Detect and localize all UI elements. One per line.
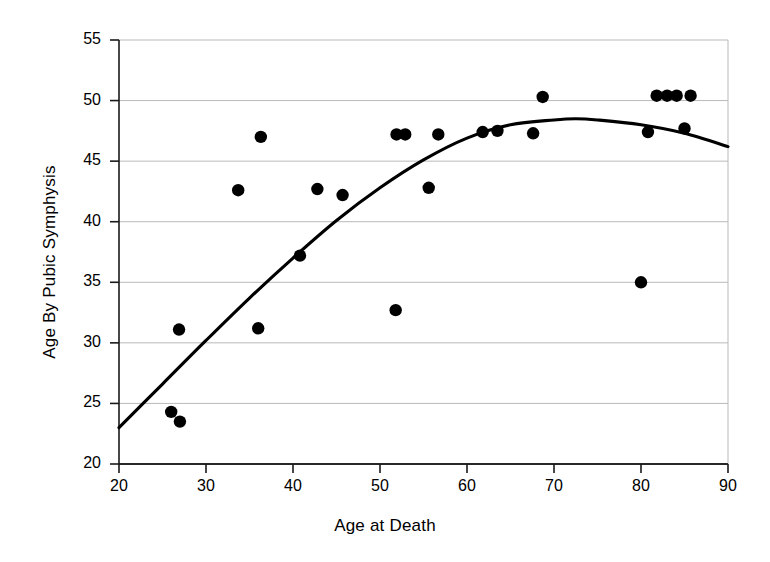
data-point [635,276,647,288]
data-point [399,128,411,140]
y-tick-label: 20 [61,454,101,472]
y-tick-label: 30 [61,333,101,351]
y-tick-label: 25 [61,393,101,411]
data-point [232,184,244,196]
y-tick-label: 45 [61,151,101,169]
x-tick-label: 90 [708,477,748,495]
axis-lines-group [119,40,728,464]
data-point [174,415,186,427]
x-tick-label: 40 [273,477,313,495]
data-point [476,126,488,138]
x-tick-label: 30 [186,477,226,495]
fit-curve-path [119,119,728,428]
x-tick-label: 20 [99,477,139,495]
data-point [423,182,435,194]
scatter-chart: Age at Death Age By Pubic Symphysis 2025… [0,0,770,562]
y-tick-label: 35 [61,272,101,290]
data-point [527,127,539,139]
data-point [255,131,267,143]
data-point [336,189,348,201]
data-point [311,183,323,195]
data-point [670,90,682,102]
y-axis-title: Age By Pubic Symphysis [40,62,60,462]
data-point [252,322,264,334]
data-point [678,122,690,134]
gridlines-group [119,40,728,464]
data-point [642,126,654,138]
ticks-group [110,40,728,473]
x-tick-label: 70 [534,477,574,495]
y-tick-label: 55 [61,30,101,48]
data-point [389,304,401,316]
y-tick-label: 50 [61,91,101,109]
data-point [165,406,177,418]
x-tick-label: 80 [621,477,661,495]
x-tick-label: 60 [447,477,487,495]
y-tick-label: 40 [61,212,101,230]
data-point [294,249,306,261]
x-axis-title: Age at Death [0,516,770,536]
data-point [173,323,185,335]
data-point [536,91,548,103]
data-point [432,128,444,140]
data-points-group [165,90,697,428]
data-point [684,90,696,102]
data-point [491,125,503,137]
x-tick-label: 50 [360,477,400,495]
